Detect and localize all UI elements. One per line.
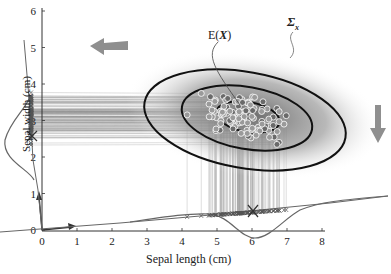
y-axis-label: Sepal width (cm) <box>20 74 32 154</box>
y-tick-label: 5 <box>31 42 37 54</box>
x-tick-label: 2 <box>109 235 115 247</box>
x-tick-label: 3 <box>144 235 150 247</box>
figure: 0123456 012345678 Sepal width (cm) Sepal… <box>0 0 391 274</box>
x-axis-label: Sepal length (cm) <box>146 252 231 267</box>
y-tick-label: 1 <box>31 188 37 200</box>
x-tick-label: 7 <box>284 235 290 247</box>
mean-annotation: E(X) <box>208 28 231 43</box>
x-marginal-density-curve <box>130 196 388 238</box>
left-arrow-icon <box>90 38 128 55</box>
x-projected-points <box>185 205 288 219</box>
x-tick-label: 4 <box>179 235 185 247</box>
x-axis: 012345678 <box>39 228 325 247</box>
x-tick-label: 1 <box>74 235 80 247</box>
plot-canvas: 0123456 012345678 <box>0 0 391 274</box>
x-tick-label: 0 <box>39 235 45 247</box>
y-tick-label: 6 <box>31 5 37 17</box>
x-tick-label: 5 <box>214 235 220 247</box>
x-tick-label: 8 <box>319 235 325 247</box>
sigma-leader-line <box>290 32 294 58</box>
covariance-annotation: Σx <box>287 14 299 32</box>
